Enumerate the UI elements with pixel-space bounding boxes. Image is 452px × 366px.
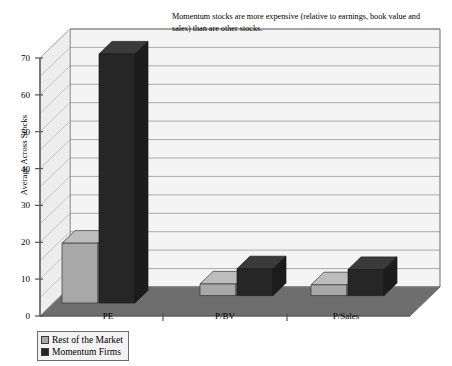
bar-psales-momentum-firms bbox=[348, 257, 397, 296]
legend-item-rest-of-the-market: Rest of the Market bbox=[41, 334, 123, 346]
legend-label-momentum-firms: Momentum Firms bbox=[52, 347, 121, 357]
legend-label-rest-of-the-market: Rest of the Market bbox=[52, 335, 123, 345]
y-tick-label-50: 50 bbox=[8, 127, 30, 137]
bar-pe-momentum-firms bbox=[99, 41, 148, 303]
chart-legend: Rest of the Market Momentum Firms bbox=[37, 331, 129, 361]
x-tick-label-pe: PE bbox=[78, 311, 138, 321]
y-tick-label-10: 10 bbox=[8, 274, 30, 284]
y-tick-label-40: 40 bbox=[8, 164, 30, 174]
legend-item-momentum-firms: Momentum Firms bbox=[41, 346, 123, 358]
x-tick-label-pbv: P/BV bbox=[195, 311, 255, 321]
y-tick-label-0: 0 bbox=[8, 311, 30, 321]
bar-pbv-momentum-firms bbox=[237, 256, 286, 295]
y-tick-label-70: 70 bbox=[8, 53, 30, 63]
chart-page: Average Across Stocks 0 10 20 30 40 50 6… bbox=[0, 0, 452, 366]
legend-swatch-icon-rest-of-the-market bbox=[41, 336, 49, 344]
y-tick-label-20: 20 bbox=[8, 237, 30, 247]
x-tick-label-psales: P/Sales bbox=[314, 311, 378, 321]
y-tick-label-30: 30 bbox=[8, 200, 30, 210]
chart-annotation: Momentum stocks are more expensive (rela… bbox=[172, 11, 440, 34]
y-tick-label-60: 60 bbox=[8, 90, 30, 100]
legend-swatch-icon-momentum-firms bbox=[41, 348, 49, 356]
